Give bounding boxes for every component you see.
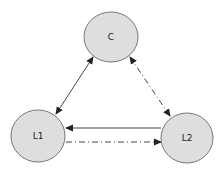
edge-c-l1[interactable] <box>56 57 93 114</box>
nodes-layer: C L1 L2 <box>11 12 213 163</box>
edge-c-l2[interactable] <box>130 57 170 116</box>
edges-layer <box>56 57 170 142</box>
node-l1-label: L1 <box>33 131 44 141</box>
node-l1[interactable]: L1 <box>11 110 65 162</box>
node-l2[interactable]: L2 <box>161 113 213 163</box>
node-c-label: C <box>108 32 114 42</box>
node-c[interactable]: C <box>84 12 138 62</box>
diagram-canvas: C L1 L2 <box>0 0 224 171</box>
node-l2-label: L2 <box>182 133 193 143</box>
